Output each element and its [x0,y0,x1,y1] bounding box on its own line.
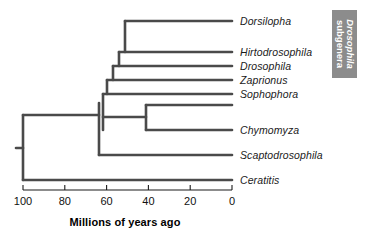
tip-label-ceratitis: Ceratitis [240,175,279,186]
tip-label-dorsilopha: Dorsilopha [240,16,291,27]
subgenera-label-line1: Drosophila [344,19,355,69]
axis-tick-label-100: 100 [14,196,32,207]
tip-label-sophophora: Sophophora [240,89,298,100]
axis-tick-label-0: 0 [229,196,235,207]
tip-label-zaprionus: Zaprionus [240,75,288,86]
axis-title: Millions of years ago [0,216,250,228]
tip-label-chymomyza: Chymomyza [240,125,299,136]
tip-label-drosophila: Drosophila [240,61,291,72]
subgenera-bracket-box: Drosophila subgenera [332,10,357,78]
phylogenetic-tree-figure: Dorsilopha Hirtodrosophila Drosophila Za… [0,0,369,240]
subgenera-label-line2: subgenera [335,20,346,68]
tip-label-scaptodrosophila: Scaptodrosophila [240,150,323,161]
axis-tick-label-20: 20 [184,196,196,207]
axis-tick-label-60: 60 [100,196,112,207]
axis-tick-label-40: 40 [142,196,154,207]
tip-label-hirtodrosophila: Hirtodrosophila [240,47,312,58]
axis-tick-label-80: 80 [59,196,71,207]
